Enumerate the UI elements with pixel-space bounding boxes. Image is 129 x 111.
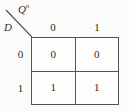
- cell-r0c1: 0: [76, 38, 119, 71]
- column-header-0: 0: [31, 19, 75, 36]
- table-row: 0 0: [32, 38, 118, 72]
- table-row: 1 1: [32, 72, 118, 105]
- column-header-row: 0 1: [31, 19, 119, 36]
- cell-r1c1: 1: [76, 72, 119, 105]
- column-header-1: 1: [75, 19, 119, 36]
- row-variable-label: D: [4, 22, 12, 33]
- cell-r1c0: 1: [32, 72, 76, 105]
- row-header-0: 0: [10, 37, 31, 71]
- table-grid: 0 0 1 1: [31, 37, 119, 105]
- state-transition-table: Qn D 0 1 0 1 0 0 1 1: [0, 0, 129, 111]
- column-variable-label: Qn: [18, 4, 29, 15]
- row-header-column: 0 1: [10, 37, 31, 105]
- cell-r0c0: 0: [32, 38, 76, 71]
- corner-header: Qn D: [2, 2, 32, 38]
- row-header-1: 1: [10, 71, 31, 105]
